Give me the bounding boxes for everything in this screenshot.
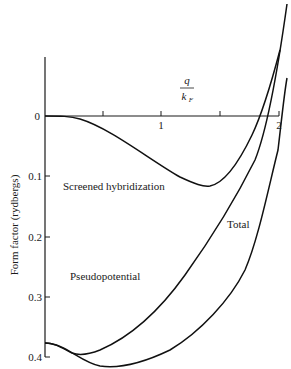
x-label-numerator: q [184, 74, 190, 86]
form-factor-chart: 1 2 0 0.1 0.2 0.3 0.4 Form factor (rydbe… [0, 0, 291, 369]
x-label-denominator: k [182, 90, 188, 102]
y-tick-label-0.2: 0.2 [28, 231, 42, 243]
x-axis-title: q k F [180, 74, 194, 104]
y-tick-label-0.3: 0.3 [28, 291, 42, 303]
series-total [45, 78, 287, 367]
x-tick-label-1: 1 [158, 119, 164, 131]
y-tick-label-0.1: 0.1 [28, 170, 42, 182]
x-label-denominator-sub: F [188, 96, 194, 104]
y-ticks [45, 176, 50, 357]
y-tick-label-0: 0 [35, 110, 41, 122]
label-screened-hybridization: Screened hybridization [63, 180, 165, 192]
label-pseudopotential: Pseudopotential [70, 270, 140, 282]
x-ticks [103, 111, 279, 116]
y-tick-label-0.4: 0.4 [28, 351, 42, 363]
y-axis-title: Form factor (rydbergs) [8, 174, 21, 275]
label-total: Total [227, 218, 249, 230]
